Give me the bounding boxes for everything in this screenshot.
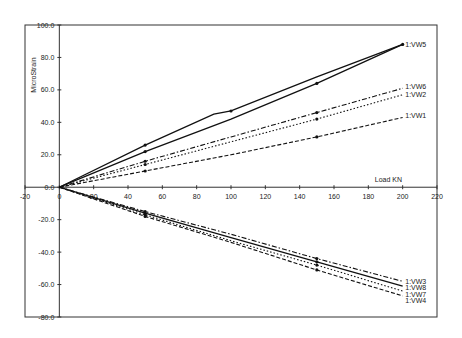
data-point-marker xyxy=(315,135,318,138)
data-point-marker xyxy=(144,215,147,218)
y-axis-title: MicroStrain xyxy=(30,57,37,93)
y-tick-label: -20.0 xyxy=(38,216,54,223)
series-layer xyxy=(59,43,404,296)
data-point-marker xyxy=(144,150,147,153)
data-point-marker xyxy=(315,268,318,271)
y-tick-label: 40.0 xyxy=(41,119,55,126)
x-tick-label: 160 xyxy=(328,193,340,200)
x-tick-label: 60 xyxy=(158,193,166,200)
data-point-marker xyxy=(315,263,318,266)
series-label: 1:VW6 xyxy=(405,83,426,90)
x-tick-label: 220 xyxy=(431,193,443,200)
series-line-1-vw1 xyxy=(59,117,402,187)
data-point-marker xyxy=(315,82,318,85)
y-tick-label: 0.0 xyxy=(45,184,55,191)
series-label: 1:VW2 xyxy=(405,91,426,98)
axes: -20020406080100120140160180200220100.080… xyxy=(20,22,443,321)
x-tick-label: 180 xyxy=(362,193,374,200)
y-tick-label: -60.0 xyxy=(38,281,54,288)
data-point-marker xyxy=(144,169,147,172)
y-tick-label: 100.0 xyxy=(37,22,55,29)
data-point-marker xyxy=(315,111,318,114)
series-label: 1:VW5 xyxy=(405,41,426,48)
data-point-marker xyxy=(315,260,318,263)
x-tick-label: 140 xyxy=(294,193,306,200)
x-tick-label: 80 xyxy=(193,193,201,200)
y-tick-label: -80.0 xyxy=(38,314,54,321)
series-line-1-vw2 xyxy=(59,95,402,187)
y-tick-label: -40.0 xyxy=(38,249,54,256)
x-tick-label: 200 xyxy=(397,193,409,200)
x-tick-label: 40 xyxy=(124,193,132,200)
line-chart: -20020406080100120140160180200220100.080… xyxy=(0,0,462,338)
y-tick-label: 60.0 xyxy=(41,86,55,93)
x-tick-label: 0 xyxy=(57,193,61,200)
x-tick-label: 120 xyxy=(259,193,271,200)
data-point-marker xyxy=(315,257,318,260)
x-tick-label: 100 xyxy=(225,193,237,200)
data-point-marker xyxy=(229,109,232,112)
y-tick-label: 20.0 xyxy=(41,151,55,158)
series-line-1-vw4 xyxy=(59,187,402,296)
series-label: 1:VW1 xyxy=(405,112,426,119)
y-tick-label: 80.0 xyxy=(41,54,55,61)
plot-frame xyxy=(25,25,437,317)
labels-layer: 1:VW51:VW61:VW21:VW11:VW31:VW81:VW71:VW4 xyxy=(405,41,426,304)
x-tick-label: -20 xyxy=(20,193,30,200)
data-point-marker xyxy=(144,160,147,163)
data-point-marker xyxy=(144,143,147,146)
data-point-marker xyxy=(315,117,318,120)
series-line-1-vw6 xyxy=(59,88,402,187)
series-label: 1:VW4 xyxy=(405,297,426,304)
data-point-marker xyxy=(144,163,147,166)
x-axis-title: Load KN xyxy=(375,176,402,183)
series-line-1-vw5-return- xyxy=(59,44,402,187)
series-line-1-vw3 xyxy=(59,187,402,281)
